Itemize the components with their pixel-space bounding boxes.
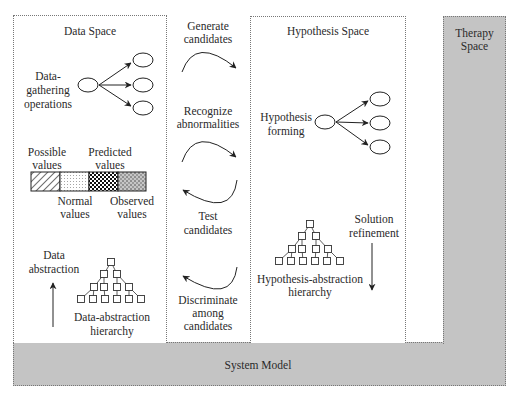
data-abstraction-label-2: abstraction bbox=[26, 262, 82, 276]
solution-refinement-label-1: Solution bbox=[346, 212, 402, 226]
data-abstraction-tree bbox=[78, 259, 145, 303]
hypothesis-hierarchy-label-1: Hypothesis-abstraction bbox=[255, 272, 365, 286]
step-generate-label-1: Generate bbox=[168, 19, 248, 33]
data-gathering-fan bbox=[78, 53, 153, 115]
step-discriminate-label-2: among bbox=[168, 306, 248, 320]
normal-values-label-2: values bbox=[50, 207, 100, 221]
step-discriminate-label-3: candidates bbox=[168, 319, 248, 333]
process-arrows bbox=[182, 52, 237, 289]
normal-values-label-1: Normal bbox=[50, 194, 100, 208]
data-abstraction-label-1: Data bbox=[26, 248, 82, 262]
predicted-values-label-2: values bbox=[82, 158, 138, 172]
solution-refinement-label-2: refinement bbox=[346, 226, 402, 240]
data-gathering-label-1: Data- bbox=[20, 69, 76, 83]
predicted-values-label-1: Predicted bbox=[82, 145, 138, 159]
data-gathering-label-3: operations bbox=[20, 97, 76, 111]
value-pattern-bar bbox=[31, 172, 146, 191]
step-test-label-2: candidates bbox=[168, 223, 248, 237]
step-discriminate-label-1: Discriminate bbox=[168, 293, 248, 307]
system-model-title: System Model bbox=[200, 358, 316, 372]
hypothesis-forming-label-1: Hypothesis bbox=[258, 110, 314, 124]
step-test-label-1: Test bbox=[168, 209, 248, 223]
possible-values-label-2: values bbox=[22, 158, 72, 172]
hypothesis-forming-fan bbox=[315, 92, 390, 154]
therapy-space-title-2: Space bbox=[443, 39, 506, 53]
possible-values-label-1: Possible bbox=[22, 145, 72, 159]
hypothesis-forming-label-2: forming bbox=[258, 124, 314, 138]
step-generate-label-2: candidates bbox=[168, 32, 248, 46]
hypothesis-space-title: Hypothesis Space bbox=[268, 24, 388, 38]
therapy-space-title-1: Therapy bbox=[443, 26, 506, 40]
hypothesis-hierarchy-label-2: hierarchy bbox=[255, 285, 365, 299]
data-hierarchy-label-1: Data-abstraction bbox=[70, 310, 154, 324]
step-recognize-label-1: Recognize bbox=[168, 104, 248, 118]
observed-values-label-1: Observed bbox=[106, 194, 158, 208]
data-space-title: Data Space bbox=[40, 24, 140, 38]
data-hierarchy-label-2: hierarchy bbox=[70, 324, 154, 338]
step-recognize-label-2: abnormalities bbox=[168, 117, 248, 131]
data-gathering-label-2: gathering bbox=[20, 83, 76, 97]
hypothesis-abstraction-tree bbox=[276, 221, 344, 265]
observed-values-label-2: values bbox=[106, 207, 158, 221]
